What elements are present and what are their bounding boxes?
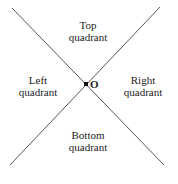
top-quadrant-label-line2: quadrant: [69, 31, 107, 43]
origin-marker: [84, 82, 88, 86]
bottom-quadrant-label-line1: Bottom: [69, 129, 107, 141]
left-quadrant-label: Left quadrant: [19, 74, 57, 98]
bottom-quadrant-label-line2: quadrant: [69, 141, 107, 153]
right-quadrant-label: Right quadrant: [124, 74, 162, 98]
left-quadrant-label-line1: Left: [19, 74, 57, 86]
bottom-quadrant-label: Bottom quadrant: [69, 129, 107, 153]
top-quadrant-label: Top quadrant: [69, 19, 107, 43]
right-quadrant-label-line1: Right: [124, 74, 162, 86]
origin-label: O: [90, 78, 99, 90]
left-quadrant-label-line2: quadrant: [19, 86, 57, 98]
quadrant-diagram: O Top quadrant Left quadrant Right quadr…: [0, 0, 178, 184]
right-quadrant-label-line2: quadrant: [124, 86, 162, 98]
top-quadrant-label-line1: Top: [69, 19, 107, 31]
